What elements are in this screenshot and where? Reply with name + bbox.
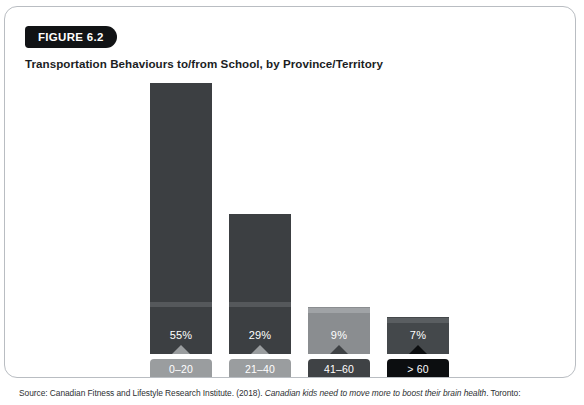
bar-chart-plot-area: 55%0–20MINS29%21–40MINS9%41–60MINS7%> 60…	[5, 7, 576, 378]
source-suffix: . Toronto:	[486, 388, 520, 398]
bar-pointer-triangle-icon	[251, 345, 269, 354]
source-prefix: Source: Canadian Fitness and Lifestyle R…	[19, 388, 265, 398]
bar-value-label: 7%	[387, 329, 449, 341]
chip-label-unit: MINS	[404, 376, 431, 378]
category-chip-4[interactable]: > 60MINS	[387, 359, 449, 378]
chip-label-unit: MINS	[246, 376, 273, 378]
bar-pointer-triangle-icon	[172, 345, 190, 354]
bar-value-label: 29%	[229, 329, 291, 341]
bar-highlight-band	[387, 318, 449, 323]
bar-pointer-triangle-icon	[409, 345, 427, 354]
bar-2: 29%	[229, 214, 291, 354]
bar-highlight-band	[229, 302, 291, 307]
bar-highlight-band	[150, 302, 212, 307]
chip-label-range: 0–20	[169, 363, 193, 376]
chip-label-unit: MINS	[167, 376, 194, 378]
category-chip-2[interactable]: 21–40MINS	[229, 359, 291, 378]
bar-value-label: 9%	[308, 329, 370, 341]
bar-pointer-triangle-icon	[330, 345, 348, 354]
category-chip-3[interactable]: 41–60MINS	[308, 359, 370, 378]
bar-value-label: 55%	[150, 329, 212, 341]
chip-label-range: > 60	[407, 363, 429, 376]
bar-highlight-band	[308, 308, 370, 313]
chip-label-unit: MINS	[325, 376, 352, 378]
chip-label-range: 41–60	[324, 363, 354, 376]
figure-card: FIGURE 6.2 Transportation Behaviours to/…	[4, 6, 576, 378]
source-title-italic: Canadian kids need to move more to boost…	[265, 388, 486, 398]
source-citation: Source: Canadian Fitness and Lifestyle R…	[19, 388, 579, 398]
bar-1: 55%	[150, 83, 212, 354]
chip-label-range: 21–40	[245, 363, 275, 376]
category-chip-1[interactable]: 0–20MINS	[150, 359, 212, 378]
